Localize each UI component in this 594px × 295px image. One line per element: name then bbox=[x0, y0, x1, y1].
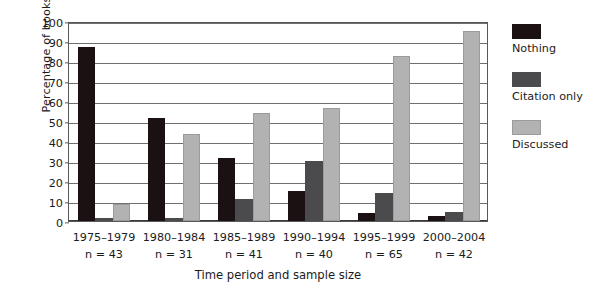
bar-group: 2000–2004n = 42 bbox=[419, 23, 489, 221]
y-axis-tick-label: 0 bbox=[19, 217, 63, 230]
bar-group: 1980–1984n = 31 bbox=[139, 23, 209, 221]
x-axis-tick-label: 2000–2004n = 42 bbox=[411, 229, 497, 263]
bar-nothing bbox=[428, 216, 446, 221]
bar-group: 1975–1979n = 43 bbox=[69, 23, 139, 221]
bar-citation-only bbox=[95, 218, 113, 221]
legend-swatch-discussed bbox=[512, 120, 541, 135]
bar-citation-only bbox=[235, 199, 253, 221]
bar-discussed bbox=[253, 113, 271, 221]
bar-nothing bbox=[218, 158, 236, 221]
legend-item: Citation only bbox=[512, 72, 592, 103]
bar-nothing bbox=[288, 191, 306, 221]
bar-nothing bbox=[78, 47, 96, 221]
x-axis-tick-period: 1980–1984 bbox=[143, 231, 206, 244]
y-axis-tick-label: 100 bbox=[19, 17, 63, 30]
y-axis-tick-label: 90 bbox=[19, 37, 63, 50]
legend-swatch-citation-only bbox=[512, 72, 541, 87]
x-axis-tick-period: 1995–1999 bbox=[353, 231, 416, 244]
legend-item: Discussed bbox=[512, 120, 592, 151]
y-axis-tick-label: 40 bbox=[19, 137, 63, 150]
bar-nothing bbox=[148, 118, 166, 221]
x-axis-tick-period: 2000–2004 bbox=[423, 231, 486, 244]
bar-citation-only bbox=[165, 218, 183, 221]
legend-swatch-nothing bbox=[512, 24, 541, 39]
bar-group: 1995–1999n = 65 bbox=[349, 23, 419, 221]
y-axis-tick-label: 70 bbox=[19, 77, 63, 90]
bar-group: 1985–1989n = 41 bbox=[209, 23, 279, 221]
bar-discussed bbox=[393, 56, 411, 221]
x-axis-tick-sample-size: n = 42 bbox=[411, 246, 497, 263]
y-axis-tick-label: 20 bbox=[19, 177, 63, 190]
bar-citation-only bbox=[305, 161, 323, 221]
bar-citation-only bbox=[445, 212, 463, 221]
bar-nothing bbox=[358, 213, 376, 221]
legend-item: Nothing bbox=[512, 24, 592, 55]
x-axis-tick-period: 1990–1994 bbox=[283, 231, 346, 244]
x-axis-title: Time period and sample size bbox=[68, 268, 488, 282]
legend-label: Citation only bbox=[512, 90, 592, 103]
x-axis-tick-period: 1975–1979 bbox=[73, 231, 136, 244]
bar-discussed bbox=[463, 31, 481, 221]
bar-discussed bbox=[183, 134, 201, 221]
legend-label: Discussed bbox=[512, 138, 592, 151]
y-axis-tick-label: 10 bbox=[19, 197, 63, 210]
x-axis-tick-period: 1985–1989 bbox=[213, 231, 276, 244]
chart-figure: Percentage of books 01020304050607080901… bbox=[0, 0, 594, 295]
bar-discussed bbox=[323, 108, 341, 221]
plot-area: 01020304050607080901001975–1979n = 43198… bbox=[68, 22, 488, 222]
y-axis-tick-label: 60 bbox=[19, 97, 63, 110]
y-axis-tick-label: 50 bbox=[19, 117, 63, 130]
y-axis-tick-label: 30 bbox=[19, 157, 63, 170]
bar-group: 1990–1994n = 40 bbox=[279, 23, 349, 221]
y-axis-tick-label: 80 bbox=[19, 57, 63, 70]
chart-legend: NothingCitation onlyDiscussed bbox=[512, 24, 592, 168]
bar-discussed bbox=[113, 204, 131, 221]
y-axis-tick-mark bbox=[65, 222, 69, 223]
bar-citation-only bbox=[375, 193, 393, 221]
legend-label: Nothing bbox=[512, 42, 592, 55]
